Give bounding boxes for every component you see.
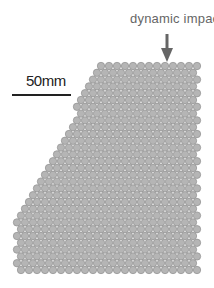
particle-assembly xyxy=(13,62,200,273)
particle-assembly-diagram xyxy=(0,0,214,288)
impact-arrow-icon xyxy=(161,34,173,62)
